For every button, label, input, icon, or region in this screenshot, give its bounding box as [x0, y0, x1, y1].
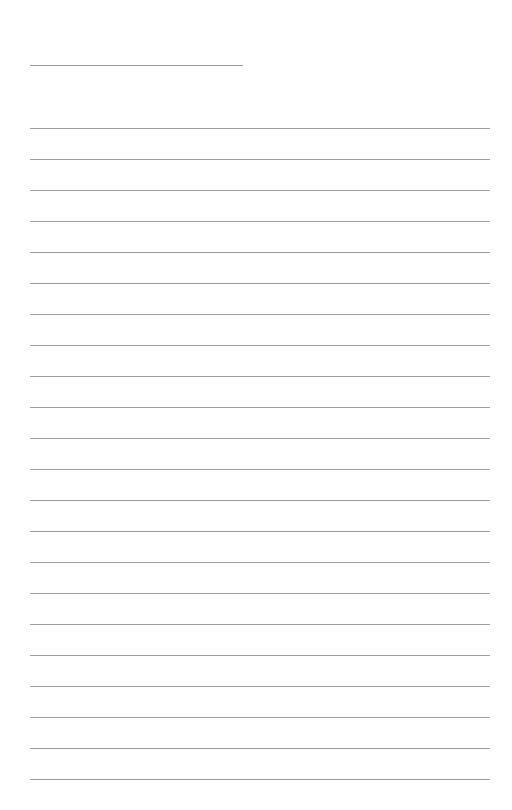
- ruled-line: [30, 314, 490, 315]
- ruled-line: [30, 345, 490, 346]
- ruled-line: [30, 686, 490, 687]
- ruled-line: [30, 655, 490, 656]
- ruled-line: [30, 531, 490, 532]
- ruled-line: [30, 438, 490, 439]
- ruled-line: [30, 376, 490, 377]
- ruled-line: [30, 407, 490, 408]
- ruled-line: [30, 624, 490, 625]
- ruled-line: [30, 221, 490, 222]
- ruled-line: [30, 562, 490, 563]
- ruled-line: [30, 500, 490, 501]
- ruled-line: [30, 779, 490, 780]
- ruled-line: [30, 190, 490, 191]
- ruled-line: [30, 469, 490, 470]
- ruled-line: [30, 717, 490, 718]
- ruled-lines: [0, 0, 512, 810]
- ruled-line: [30, 159, 490, 160]
- ruled-line: [30, 593, 490, 594]
- ruled-line: [30, 748, 490, 749]
- ruled-line: [30, 252, 490, 253]
- ruled-line: [30, 128, 490, 129]
- ruled-line: [30, 283, 490, 284]
